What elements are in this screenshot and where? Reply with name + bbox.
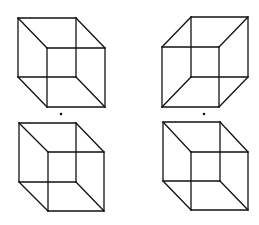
fixation-dots: [60, 113, 206, 116]
cube-depth-edge: [219, 77, 248, 107]
cube-depth-edge: [163, 181, 191, 210]
cube-bottom-left: [19, 123, 104, 211]
fixation-dot-right: [203, 113, 206, 116]
cube-depth-edge: [163, 122, 191, 152]
cube-top-right: [162, 17, 248, 107]
cube-depth-edge: [18, 77, 47, 107]
cube-depth-edge: [76, 182, 104, 211]
cube-depth-edge: [19, 182, 48, 211]
cube-depth-edge: [162, 17, 191, 47]
cube-depth-edge: [220, 181, 248, 210]
cube-depth-edge: [76, 123, 104, 152]
cube-top-left: [18, 18, 105, 107]
necker-cubes-figure: [0, 0, 259, 225]
cube-depth-edge: [18, 18, 47, 48]
cube-depth-edge: [19, 123, 48, 152]
cube-bottom-right: [163, 122, 248, 210]
cube-depth-edge: [76, 77, 105, 107]
cube-depth-edge: [219, 17, 248, 47]
cube-depth-edge: [76, 18, 105, 48]
cube-depth-edge: [162, 77, 191, 107]
cube-depth-edge: [220, 122, 248, 152]
fixation-dot-left: [60, 113, 63, 116]
